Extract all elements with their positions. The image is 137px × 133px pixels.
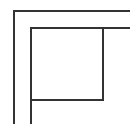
background xyxy=(0,0,137,133)
diagram-canvas xyxy=(0,0,137,133)
